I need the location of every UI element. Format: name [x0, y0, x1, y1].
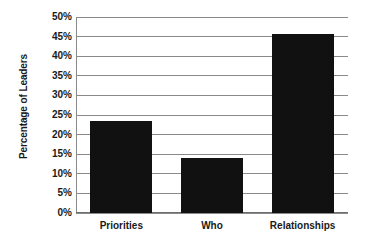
bar: [272, 34, 334, 213]
x-axis-category-labels: PrioritiesWhoRelationships: [76, 219, 348, 237]
y-axis-tick-label: 35%: [30, 71, 72, 81]
y-axis-tick-label: 10%: [30, 169, 72, 179]
bar: [90, 121, 152, 213]
y-axis-tick-label: 30%: [30, 90, 72, 100]
bar: [181, 158, 243, 213]
y-axis-tick-label: 25%: [30, 110, 72, 120]
x-axis-category-label: Priorities: [76, 219, 167, 233]
y-axis-tick-label: 45%: [30, 32, 72, 42]
y-axis-tick-labels: 0%5%10%15%20%25%30%35%40%45%50%: [30, 17, 72, 213]
plot-area: [76, 17, 348, 213]
y-axis-tick-label: 20%: [30, 130, 72, 140]
y-axis-tick-label: 0%: [30, 208, 72, 218]
y-axis-tick-label: 5%: [30, 188, 72, 198]
y-axis-tick-label: 15%: [30, 149, 72, 159]
bars-layer: [76, 17, 348, 213]
y-axis-tick-label: 50%: [30, 12, 72, 22]
y-axis-tick-label: 40%: [30, 51, 72, 61]
x-axis-category-label: Who: [167, 219, 258, 233]
bar-chart: Percentage of Leaders 0%5%10%15%20%25%30…: [0, 0, 365, 248]
x-axis-category-label: Relationships: [257, 219, 348, 233]
